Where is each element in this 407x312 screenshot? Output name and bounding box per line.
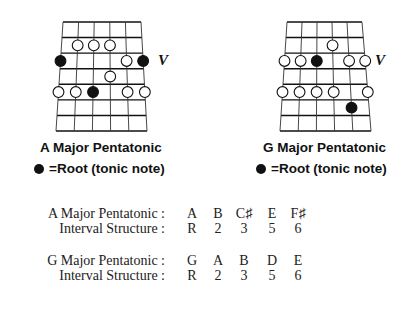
scale-label: G Major Pentatonic : xyxy=(47,253,165,269)
string-line xyxy=(316,22,317,131)
scale-note-dot xyxy=(344,56,355,67)
scale-note-dot xyxy=(362,87,373,98)
note-cell: E xyxy=(288,253,308,269)
scale-note-dot xyxy=(360,56,371,67)
legend-g: =Root (tonic note) xyxy=(256,161,387,176)
string-line xyxy=(332,22,335,131)
scale-note-dot xyxy=(295,56,306,67)
interval-cell: 5 xyxy=(262,268,282,284)
interval-cell: 2 xyxy=(208,221,228,237)
legend-text: =Root (tonic note) xyxy=(49,161,165,176)
note-cell: D xyxy=(262,253,282,269)
table-row-g-notes: G Major Pentatonic : xyxy=(0,253,165,269)
interval-cell: 5 xyxy=(262,221,282,237)
position-marker-g: V xyxy=(375,52,385,69)
table-row-a-intervals: Interval Structure : xyxy=(0,221,165,237)
scale-note-dot xyxy=(122,87,133,98)
string-line xyxy=(347,22,353,131)
root-note-dot xyxy=(138,56,149,67)
interval-label: Interval Structure : xyxy=(59,221,165,237)
scale-note-dot xyxy=(328,87,339,98)
scale-label: A Major Pentatonic : xyxy=(48,206,165,222)
legend-a: =Root (tonic note) xyxy=(34,161,165,176)
position-marker-a: V xyxy=(158,52,168,69)
string-line xyxy=(298,22,302,131)
note-cell: F♯ xyxy=(288,206,308,222)
diagram-title-a: A Major Pentatonic xyxy=(40,140,162,155)
string-line xyxy=(125,22,128,131)
string-line xyxy=(56,22,63,131)
scale-note-dot xyxy=(105,71,116,82)
legend-text: =Root (tonic note) xyxy=(271,161,387,176)
root-note-dot xyxy=(55,56,66,67)
string-line xyxy=(74,22,78,131)
root-dot-icon xyxy=(34,164,44,174)
scale-note-dot xyxy=(139,87,150,98)
interval-cell: 3 xyxy=(234,268,254,284)
scale-note-dot xyxy=(294,87,305,98)
note-cell: A xyxy=(182,206,202,222)
note-cell: E xyxy=(262,206,282,222)
string-line xyxy=(280,22,287,131)
fretboard-diagrams xyxy=(0,0,407,140)
scale-note-dot xyxy=(279,56,290,67)
interval-cell: 3 xyxy=(234,221,254,237)
scale-note-dot xyxy=(121,56,132,67)
scale-note-dot xyxy=(327,40,338,51)
interval-cell: R xyxy=(182,221,202,237)
scale-note-dot xyxy=(277,87,288,98)
scale-note-dot xyxy=(311,87,322,98)
scale-note-dot xyxy=(70,87,81,98)
note-cell: B xyxy=(208,206,228,222)
scale-note-dot xyxy=(105,40,116,51)
note-cell: C♯ xyxy=(234,206,254,222)
interval-cell: R xyxy=(182,268,202,284)
scale-note-dot xyxy=(53,87,64,98)
table-row-g-intervals: Interval Structure : xyxy=(0,268,165,284)
string-line xyxy=(362,22,371,131)
note-cell: A xyxy=(208,253,228,269)
root-note-dot xyxy=(311,56,322,67)
root-note-dot xyxy=(346,102,357,113)
fretboard-g-major xyxy=(277,22,373,131)
note-cell: B xyxy=(234,253,254,269)
root-note-dot xyxy=(88,87,99,98)
scale-note-dot xyxy=(72,40,83,51)
table-row-a-notes: A Major Pentatonic : xyxy=(0,206,165,222)
note-cell: G xyxy=(182,253,202,269)
fretboard-a-major xyxy=(53,22,150,131)
interval-label: Interval Structure : xyxy=(59,268,165,284)
diagram-title-g: G Major Pentatonic xyxy=(263,140,386,155)
string-line xyxy=(92,22,94,131)
scale-note-dot xyxy=(88,40,99,51)
string-line xyxy=(141,22,147,131)
interval-cell: 6 xyxy=(288,268,308,284)
root-dot-icon xyxy=(256,164,266,174)
interval-cell: 2 xyxy=(208,268,228,284)
interval-cell: 6 xyxy=(288,221,308,237)
